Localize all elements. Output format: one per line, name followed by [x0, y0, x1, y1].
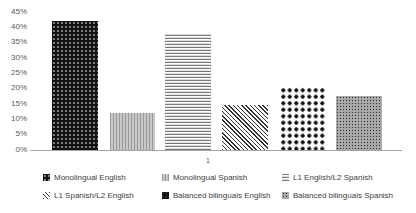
legend-item: L1 English/L2 Spanish — [282, 173, 373, 182]
y-tick-label: 20% — [0, 84, 27, 92]
legend-label: Monolingual Spanish — [173, 173, 247, 182]
legend-label: L1 English/L2 Spanish — [293, 173, 373, 182]
y-tick-label: 30% — [0, 54, 27, 62]
y-tick-label: 15% — [0, 100, 27, 108]
legend-item: Balanced bilinguals Spanish — [282, 191, 393, 200]
legend-label: L1 Spanish/L2 English — [54, 191, 134, 200]
legend-swatch-icon — [282, 192, 289, 199]
x-axis-line — [30, 150, 402, 151]
legend-label: Monolingual English — [54, 173, 126, 182]
legend-swatch-icon — [282, 174, 289, 181]
y-tick-label: 40% — [0, 23, 27, 31]
x-category-label: 1 — [0, 157, 416, 164]
legend-swatch-icon — [43, 174, 50, 181]
legend-item: Balanced bilinguals English — [162, 191, 270, 200]
bar-l1-english-l2-spanish — [165, 33, 211, 150]
legend-swatch-icon — [162, 192, 169, 199]
legend-item: L1 Spanish/L2 English — [43, 191, 134, 200]
legend-item: Monolingual Spanish — [162, 173, 247, 182]
y-tick-label: 0% — [0, 146, 27, 154]
legend-swatch-icon — [162, 174, 169, 181]
bar-balanced-bilinguals-english — [279, 86, 325, 150]
legend-swatch-icon — [43, 192, 50, 199]
bar-balanced-bilinguals-spanish — [336, 96, 382, 150]
y-tick-label: 5% — [0, 130, 27, 138]
y-tick-label: 45% — [0, 8, 27, 16]
bar-monolingual-spanish — [110, 113, 155, 150]
y-tick-label: 10% — [0, 115, 27, 123]
legend-item: Monolingual English — [43, 173, 126, 182]
bar-l1-spanish-l2-english — [222, 105, 268, 150]
legend-label: Balanced bilinguals Spanish — [293, 191, 393, 200]
bar-chart: 45% 40% 35% 30% 25% 20% 15% 10% 5% 0% 1 … — [0, 0, 416, 213]
legend-label: Balanced bilinguals English — [173, 191, 270, 200]
y-tick-label: 25% — [0, 69, 27, 77]
y-tick-label: 35% — [0, 38, 27, 46]
bar-monolingual-english — [52, 21, 98, 150]
